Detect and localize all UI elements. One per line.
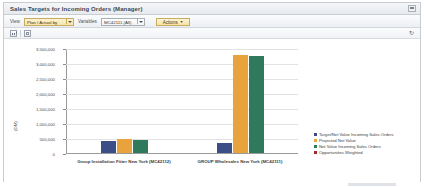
y-axis-tick-label: 500,000 (39, 137, 55, 142)
y-axis-tick-label: 3,000,000 (36, 62, 55, 67)
chevron-down-icon (68, 21, 72, 23)
chart-bar[interactable] (217, 143, 232, 153)
y-axis-tick-mark (63, 139, 66, 140)
table-grid-icon[interactable] (24, 30, 31, 37)
y-axis-tick-mark (63, 79, 66, 80)
y-axis-tick-label: 1,500,000 (36, 107, 55, 112)
y-axis-title: (DM) (13, 121, 18, 131)
variables-select[interactable]: MC42111 (All) (101, 18, 145, 26)
bar-chart-icon[interactable] (10, 30, 17, 37)
legend-color-swatch (314, 151, 317, 154)
restore-window-button[interactable] (408, 5, 416, 12)
y-axis-tick-mark (63, 94, 66, 95)
chart-bar[interactable] (117, 139, 132, 153)
view-select[interactable]: Plan / Actual by (24, 18, 74, 26)
variables-select-divider (137, 19, 138, 24)
gridline (66, 49, 298, 50)
x-axis-category-label: GROUP Wholesales New York (MC42111) (198, 159, 283, 164)
legend-color-swatch (314, 139, 317, 142)
filter-toolbar: View Plan / Actual by Variables MC42111 … (4, 15, 420, 28)
legend-label: Opportunities Weighted (319, 150, 363, 155)
legend-color-swatch (314, 145, 317, 148)
legend-label: Target/Net Value Incoming Sales Orders (319, 132, 394, 137)
view-select-value: Plan / Actual by (27, 20, 57, 25)
y-axis-tick-label: 0 (53, 152, 55, 157)
refresh-icon[interactable]: ↻ (408, 30, 415, 37)
legend-label: Projected Net Value (319, 138, 356, 143)
chart-bar[interactable] (101, 141, 116, 153)
widget-title-bar: Sales Targets for Incoming Orders (Manag… (4, 3, 420, 15)
y-axis-tick-mark (63, 124, 66, 125)
view-label: View (10, 19, 20, 24)
y-axis-tick-label: 2,500,000 (36, 77, 55, 82)
chart-bar[interactable] (233, 55, 248, 153)
plot-area (66, 49, 298, 154)
view-select-divider (66, 19, 67, 24)
chart-bar[interactable] (249, 56, 264, 153)
y-axis-tick-mark (63, 64, 66, 65)
y-axis-tick-mark (63, 154, 66, 155)
x-axis-category-label: Group Installation Fitter New York (MC42… (77, 159, 171, 164)
y-axis-tick-label: 1,000,000 (36, 122, 55, 127)
legend-color-swatch (314, 133, 317, 136)
view-toggle-toolbar: ↻ (4, 28, 420, 39)
x-axis-line (66, 153, 298, 154)
chart-bar[interactable] (133, 140, 148, 153)
actions-button[interactable]: Actions▼ (156, 18, 190, 26)
y-axis-tick-mark (63, 109, 66, 110)
actions-button-label: Actions (163, 20, 178, 25)
y-axis-tick-mark (63, 49, 66, 50)
chart-canvas: (DM) 3,500,0003,000,0002,500,0002,000,00… (4, 39, 420, 182)
variables-select-value: MC42111 (All) (104, 20, 131, 25)
y-axis-tick-label: 2,000,000 (36, 92, 55, 97)
chart-widget-panel: Sales Targets for Incoming Orders (Manag… (3, 2, 421, 182)
chevron-down-icon (139, 21, 143, 23)
variables-label: Variables (78, 19, 97, 24)
page-title: Sales Targets for Incoming Orders (Manag… (10, 6, 143, 12)
actions-caret-icon: ▼ (180, 19, 184, 26)
bottom-scroll-strip (348, 183, 396, 186)
legend-label: Net Value Incoming Sales Orders (319, 144, 381, 149)
y-axis-tick-label: 3,500,000 (36, 47, 55, 52)
toolbar-divider (20, 30, 21, 37)
